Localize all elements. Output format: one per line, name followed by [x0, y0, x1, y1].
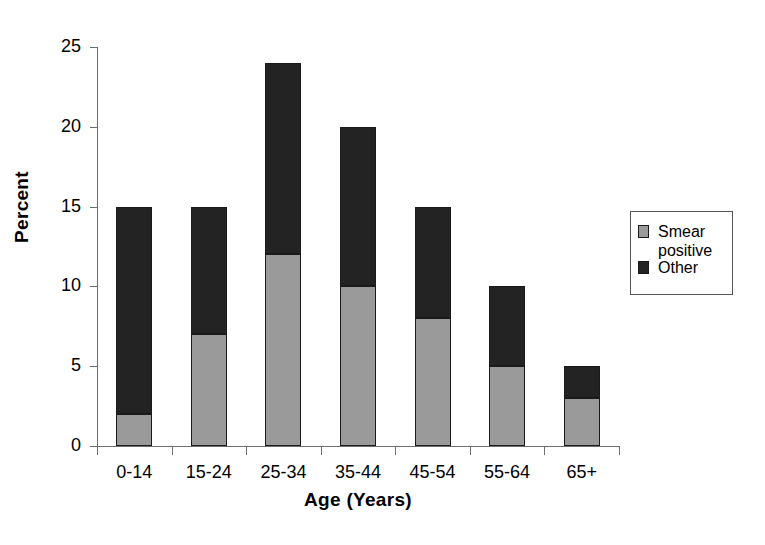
y-tick-label: 15 — [61, 196, 81, 216]
y-tick-label: 0 — [71, 435, 81, 455]
legend: Smear positiveOther — [630, 211, 733, 295]
bar-segment-other — [340, 127, 376, 287]
bar-segment-other — [116, 207, 152, 414]
bar-segment-smear-positive — [340, 286, 376, 446]
x-tick-label: 15-24 — [172, 462, 247, 482]
x-tick — [246, 446, 247, 455]
x-tick-label: 55-64 — [470, 462, 545, 482]
y-tick: 20 — [90, 127, 98, 128]
bar-segment-other — [265, 63, 301, 255]
x-tick-label: 25-34 — [246, 462, 321, 482]
y-axis-line — [97, 47, 98, 446]
legend-swatch-icon — [638, 261, 649, 274]
bar-55-64 — [489, 286, 525, 446]
plot-area: 0510152025 0-1415-2425-3435-4445-5455-64… — [97, 47, 619, 446]
y-axis-title: Percent — [11, 147, 33, 267]
bar-45-54 — [415, 207, 451, 446]
x-axis-line — [97, 446, 619, 447]
bar-0-14 — [116, 207, 152, 446]
y-tick: 15 — [90, 207, 98, 208]
x-axis-title: Age (Years) — [97, 489, 619, 511]
x-tick — [97, 446, 98, 455]
bar-segment-smear-positive — [564, 398, 600, 446]
bar-segment-smear-positive — [415, 318, 451, 446]
x-tick — [470, 446, 471, 455]
y-tick: 5 — [90, 366, 98, 367]
x-tick — [395, 446, 396, 455]
bar-segment-other — [564, 366, 600, 398]
x-tick-label: 35-44 — [321, 462, 396, 482]
legend-label: Smear positive — [658, 222, 712, 260]
x-tick-label: 45-54 — [395, 462, 470, 482]
x-tick-label: 0-14 — [97, 462, 172, 482]
x-tick-label: 65+ — [544, 462, 619, 482]
legend-label: Other — [658, 258, 698, 277]
bar-25-34 — [265, 63, 301, 446]
y-tick-label: 20 — [61, 116, 81, 136]
bar-segment-other — [191, 207, 227, 335]
x-tick — [172, 446, 173, 455]
legend-swatch-icon — [638, 225, 649, 238]
x-tick — [544, 446, 545, 455]
y-tick-label: 10 — [61, 275, 81, 295]
legend-entry: Smear positive — [638, 222, 712, 260]
bar-segment-smear-positive — [116, 414, 152, 446]
legend-entry: Other — [638, 258, 698, 277]
x-tick — [619, 446, 620, 455]
bar-65+ — [564, 366, 600, 446]
bar-segment-other — [489, 286, 525, 366]
bar-segment-smear-positive — [191, 334, 227, 446]
bar-segment-smear-positive — [265, 254, 301, 446]
y-tick-label: 25 — [61, 36, 81, 56]
chart-container: Percent 0510152025 0-1415-2425-3435-4445… — [0, 0, 765, 545]
bar-segment-smear-positive — [489, 366, 525, 446]
bar-15-24 — [191, 207, 227, 446]
y-tick-label: 5 — [71, 355, 81, 375]
bar-35-44 — [340, 127, 376, 446]
bar-segment-other — [415, 207, 451, 319]
y-tick: 25 — [90, 47, 98, 48]
x-tick — [321, 446, 322, 455]
y-tick: 10 — [90, 286, 98, 287]
